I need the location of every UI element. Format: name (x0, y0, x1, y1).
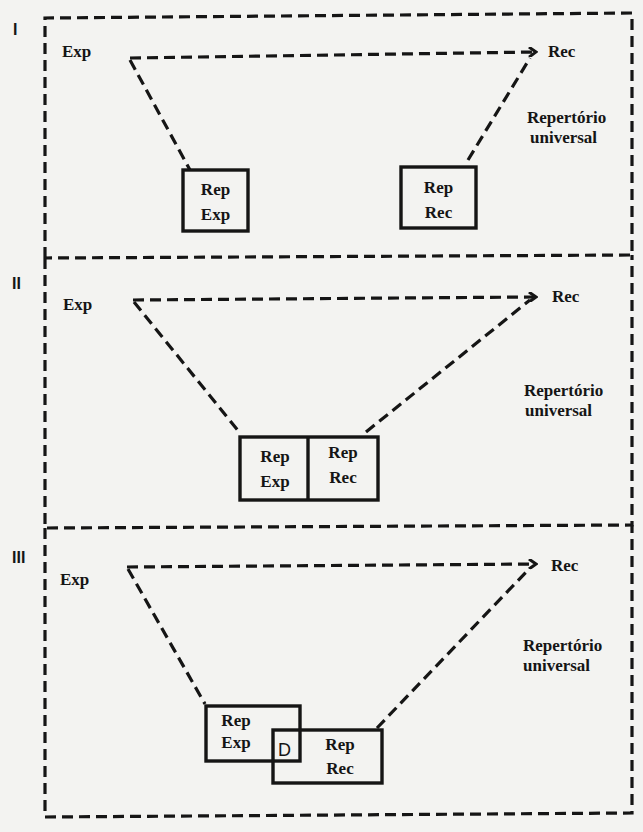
panel-ii-receiver-repertoire-label: Rep Rec (310, 440, 376, 490)
panel-i-universe-label: Repertório universal (527, 108, 606, 148)
repertoire-diagram-figure: I Exp Rec Repertório universal Rep Exp R… (0, 0, 643, 832)
panel-ii-sender-repertoire-label: Rep Exp (242, 444, 308, 494)
rec-text: Rec (310, 465, 376, 490)
universe-line-1: Repertório (523, 636, 602, 656)
universe-line-1: Repertório (524, 381, 603, 401)
panel-i-sender-label: Exp (62, 43, 91, 60)
rep-text: Rep (185, 177, 246, 202)
universe-line-2: universal (524, 401, 603, 421)
rep-text: Rep (212, 710, 260, 732)
panel-iii-receiver-label: Rec (551, 557, 578, 574)
rec-text: Rec (403, 200, 474, 225)
universe-line-2: universal (523, 656, 602, 676)
panel-ii-receiver-label: Rec (552, 288, 579, 305)
panel-i-numeral: I (13, 22, 17, 38)
intersection-d-label: D (278, 741, 291, 759)
panel-i-receiver-repertoire-label: Rep Rec (403, 175, 474, 225)
rep-text: Rep (403, 175, 474, 200)
universe-line-2: universal (527, 128, 606, 148)
rep-text: Rep (242, 444, 308, 469)
rep-text: Rep (302, 733, 378, 757)
panel-i-arrows (130, 52, 535, 170)
panel-ii-numeral: II (12, 276, 21, 292)
exp-text: Exp (185, 202, 246, 227)
exp-text: Exp (212, 732, 260, 754)
panel-iii-sender-repertoire-label: Rep Exp (212, 710, 260, 754)
exp-text: Exp (242, 469, 308, 494)
rep-text: Rep (310, 440, 376, 465)
panel-iii-arrows (127, 564, 535, 728)
panel-i-receiver-label: Rec (548, 43, 575, 60)
panel-iii-receiver-repertoire-label: Rep Rec (302, 733, 378, 781)
rec-text: Rec (302, 757, 378, 781)
panel-iii-numeral: III (12, 550, 25, 566)
panel-i-sender-repertoire-label: Rep Exp (185, 177, 246, 227)
panel-iii-sender-label: Exp (60, 571, 89, 588)
panel-ii-arrows (133, 297, 535, 433)
panel-ii-universe-label: Repertório universal (524, 381, 603, 421)
panel-iii-universe-label: Repertório universal (523, 636, 602, 676)
panel-ii-sender-label: Exp (63, 296, 92, 313)
universe-line-1: Repertório (527, 108, 606, 128)
